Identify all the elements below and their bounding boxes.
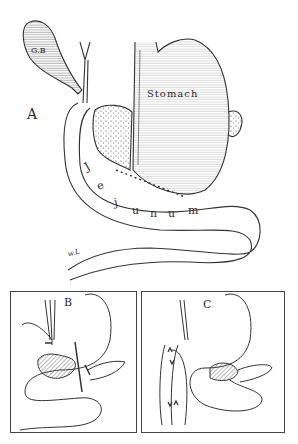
main-illustration: [23, 21, 260, 280]
panel-label-a: A: [27, 107, 37, 121]
panel-label-b: B: [64, 297, 72, 308]
inset-panel-b: [10, 291, 137, 433]
inset-panel-c: [141, 291, 285, 433]
gallbladder: [23, 21, 82, 94]
gallbladder-label: G.B: [31, 47, 46, 55]
jejunum-letter-5: n: [150, 208, 157, 219]
pancreas: [93, 105, 132, 170]
panel-label-c: C: [203, 299, 211, 310]
jejunum-letter-4: u: [132, 205, 139, 216]
spleen: [228, 111, 242, 137]
jejunum-letter-6: u: [168, 208, 175, 219]
stomach-label: Stomach: [147, 89, 198, 99]
stomach: [133, 39, 229, 194]
jejunum-letter-7: m: [188, 205, 198, 216]
bile-duct: [80, 42, 90, 103]
